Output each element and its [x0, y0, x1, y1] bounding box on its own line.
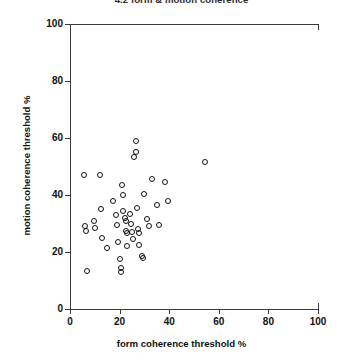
x-tick-mark — [219, 309, 220, 314]
data-point — [133, 149, 139, 155]
data-point — [154, 202, 160, 208]
data-point — [98, 206, 104, 212]
data-point — [97, 172, 103, 178]
data-point — [99, 235, 105, 241]
data-point — [81, 172, 87, 178]
x-tick-mark — [70, 309, 71, 314]
data-point — [120, 192, 126, 198]
data-point — [130, 236, 136, 242]
data-point — [156, 222, 162, 228]
data-point — [149, 176, 155, 182]
x-axis-line — [70, 309, 319, 310]
x-tick-label: 0 — [50, 316, 90, 327]
y-tick-label: 0 — [23, 304, 63, 314]
data-point — [91, 218, 97, 224]
data-point — [133, 138, 139, 144]
data-point — [118, 269, 124, 275]
data-point — [127, 211, 133, 217]
data-point — [117, 256, 123, 262]
page-title: 4.2 form & motion coherence — [0, 0, 363, 3]
data-point — [136, 230, 142, 236]
x-tick-mark — [169, 309, 170, 314]
data-point — [162, 179, 168, 185]
data-point — [128, 221, 134, 227]
x-tick-label: 100 — [298, 316, 338, 327]
data-point — [146, 223, 152, 229]
data-point — [134, 205, 140, 211]
x-tick-mark — [268, 309, 269, 314]
data-point — [144, 216, 150, 222]
data-point — [113, 212, 119, 218]
data-point — [83, 228, 89, 234]
data-point — [202, 159, 208, 165]
data-point — [115, 239, 121, 245]
x-tick-mark — [120, 309, 121, 314]
data-point — [165, 198, 171, 204]
data-point — [141, 191, 147, 197]
data-point — [140, 255, 146, 261]
y-axis-label: motion coherence threshold % — [21, 66, 32, 266]
data-point — [119, 182, 125, 188]
x-tick-mark — [318, 309, 319, 314]
data-points-layer — [70, 24, 318, 309]
y-tick-label: 100 — [23, 19, 63, 29]
x-tick-label: 40 — [149, 316, 189, 327]
x-tick-label: 80 — [248, 316, 288, 327]
x-tick-label: 20 — [100, 316, 140, 327]
data-point — [104, 245, 110, 251]
scatter-plot-figure: 4.2 form & motion coherence 020406080100… — [0, 0, 363, 360]
x-tick-label: 60 — [199, 316, 239, 327]
data-point — [114, 222, 120, 228]
data-point — [120, 208, 126, 214]
data-point — [92, 225, 98, 231]
data-point — [136, 242, 142, 248]
data-point — [84, 268, 90, 274]
axis-cap-top-right — [318, 24, 319, 30]
data-point — [124, 243, 130, 249]
x-axis-label: form coherence threshold % — [0, 338, 363, 349]
data-point — [129, 229, 135, 235]
data-point — [110, 198, 116, 204]
